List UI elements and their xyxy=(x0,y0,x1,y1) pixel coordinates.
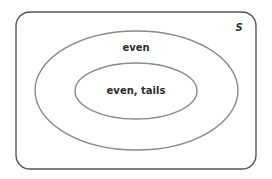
even-set-label: even xyxy=(122,42,149,53)
even-tails-set-label: even, tails xyxy=(107,85,166,96)
venn-diagram: S even even, tails xyxy=(0,0,272,179)
sample-space-label: S xyxy=(235,22,242,33)
